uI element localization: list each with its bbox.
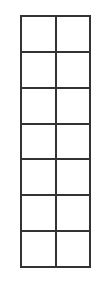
figure-canvas xyxy=(0,0,102,283)
grid-table xyxy=(20,15,91,268)
table-cell xyxy=(22,160,57,196)
table-cell-text xyxy=(57,232,90,266)
table-cell xyxy=(57,232,92,268)
table-cell xyxy=(22,232,57,268)
table-cell xyxy=(57,160,92,196)
table-cell-text xyxy=(22,196,55,230)
table-cell-text xyxy=(22,53,55,87)
table-cell xyxy=(22,89,57,125)
table-cell xyxy=(57,196,92,232)
table-cell-text xyxy=(57,89,90,123)
table-cell-text xyxy=(57,53,90,87)
table-cell-text xyxy=(22,125,55,159)
table-cell-text xyxy=(22,17,55,51)
table-cell xyxy=(57,89,92,125)
table-cell-text xyxy=(22,232,55,266)
table-cell xyxy=(57,53,92,89)
table-cell-text xyxy=(57,17,90,51)
table-cell-text xyxy=(22,160,55,194)
table-cell xyxy=(57,17,92,53)
table-cell xyxy=(22,53,57,89)
table-cell xyxy=(57,125,92,161)
table-cell xyxy=(22,125,57,161)
table-cell-text xyxy=(57,160,90,194)
table-cell-text xyxy=(57,196,90,230)
table-cell-text xyxy=(57,125,90,159)
table-cell-text xyxy=(22,89,55,123)
table-cell xyxy=(22,196,57,232)
table-cell xyxy=(22,17,57,53)
